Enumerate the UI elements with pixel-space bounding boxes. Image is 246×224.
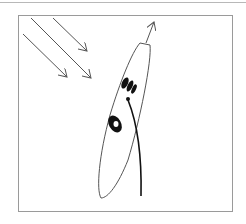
flagellum [126,97,141,196]
cell-body [99,43,151,198]
light-ray-arrow-icon [31,18,91,78]
light-ray-arrow-icon [53,18,87,51]
light-ray-arrow-icon [23,34,67,77]
diagram-canvas [0,0,246,224]
swim-direction-arrow-icon [146,22,154,43]
light-rays [23,18,91,78]
nucleus-icon [105,113,124,135]
